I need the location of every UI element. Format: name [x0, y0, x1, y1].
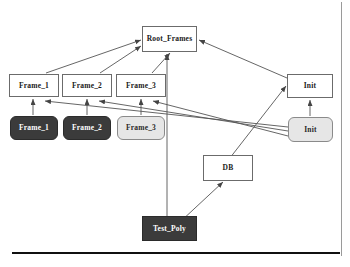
- node-label: Frame_3: [126, 124, 156, 132]
- edge-initbody-to-frame3: [153, 101, 288, 136]
- node-label: Frame_3: [126, 82, 156, 90]
- node-label: Test_Poly: [153, 225, 186, 233]
- edge-frame2-to-root: [100, 46, 141, 73]
- edge-frame1-to-root: [46, 40, 141, 73]
- node-frame-1-spec[interactable]: Frame_1: [9, 74, 59, 97]
- node-label: Init: [304, 82, 316, 90]
- node-frame-2-spec[interactable]: Frame_2: [62, 74, 112, 97]
- right-border-rule: [341, 2, 342, 256]
- node-label: DB: [223, 164, 234, 172]
- node-label: Frame_2: [72, 82, 102, 90]
- node-db[interactable]: DB: [203, 155, 253, 181]
- diagram-canvas: Root_Frames Frame_1 Frame_2 Frame_3 Init…: [0, 0, 350, 267]
- node-frame-3-spec[interactable]: Frame_3: [116, 74, 166, 97]
- node-test-poly[interactable]: Test_Poly: [142, 216, 197, 241]
- edge-init-to-root: [199, 40, 287, 78]
- node-label: Frame_2: [72, 124, 102, 132]
- node-label: Frame_1: [19, 82, 49, 90]
- node-label: Frame_1: [19, 124, 49, 132]
- node-init-spec[interactable]: Init: [287, 74, 333, 98]
- node-label: Init: [304, 126, 316, 134]
- node-frame-1-body[interactable]: Frame_1: [10, 116, 58, 140]
- node-frame-2-body[interactable]: Frame_2: [63, 116, 111, 140]
- bottom-divider-rule: [12, 252, 340, 254]
- node-frame-3-body[interactable]: Frame_3: [117, 116, 165, 140]
- node-root-frames[interactable]: Root_Frames: [142, 26, 197, 52]
- node-label: Root_Frames: [147, 35, 193, 43]
- node-init-body[interactable]: Init: [288, 117, 333, 142]
